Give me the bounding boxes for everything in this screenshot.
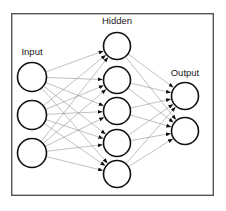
- connection-input3-to-hidden5: [46, 156, 103, 170]
- layer-nodes-hidden: [104, 33, 131, 188]
- connection-input1-to-hidden1: [46, 51, 104, 72]
- connection-input2-to-hidden2: [45, 86, 103, 110]
- neural-network-diagram: Input Hidden Output: [0, 0, 226, 211]
- neuron-node-hidden-3: [104, 98, 131, 125]
- connection-input1-to-hidden2: [46, 78, 102, 80]
- neuron-node-hidden-1: [104, 33, 131, 60]
- layer-label-input: Input: [21, 46, 42, 57]
- neuron-node-output-2: [172, 118, 199, 145]
- neuron-node-hidden-5: [104, 161, 131, 188]
- neuron-node-output-1: [172, 83, 199, 110]
- connection-hidden2-to-output1: [130, 83, 171, 93]
- connection-input3-to-hidden3: [45, 118, 104, 147]
- connection-input2-to-hidden1: [43, 55, 105, 106]
- layer-nodes-input: [18, 63, 47, 168]
- connection-hidden5-to-output2: [128, 139, 172, 167]
- neuron-node-input-1: [18, 63, 47, 92]
- layer-nodes-output: [172, 83, 199, 145]
- neuron-node-hidden-2: [104, 67, 131, 94]
- connection-hidden4-to-output2: [130, 134, 170, 141]
- edges-input-to-hidden: [41, 51, 108, 170]
- neuron-node-input-3: [18, 139, 47, 168]
- network-svg-canvas: Input Hidden Output: [0, 0, 226, 211]
- connection-input2-to-hidden3: [46, 112, 102, 115]
- connection-hidden1-to-output1: [128, 54, 173, 87]
- edges-hidden-to-output: [125, 54, 175, 167]
- layer-label-hidden: Hidden: [102, 15, 132, 26]
- layer-label-output: Output: [171, 67, 200, 78]
- neuron-node-input-2: [18, 101, 47, 130]
- connection-hidden3-to-output1: [130, 99, 170, 108]
- connection-hidden3-to-output2: [130, 115, 171, 127]
- neuron-node-hidden-4: [104, 130, 131, 157]
- connection-input2-to-hidden5: [44, 123, 105, 165]
- connection-hidden4-to-output1: [128, 104, 173, 135]
